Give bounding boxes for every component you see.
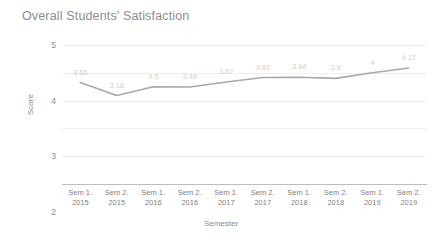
x-tick-label-2: Sem 1.2016 <box>135 188 172 214</box>
x-tick-label-8: Sem 1.2019 <box>354 188 391 214</box>
x-tick-year: 2019 <box>391 198 428 208</box>
x-tick-year: 2018 <box>281 198 318 208</box>
x-tick-year: 2016 <box>172 198 209 208</box>
x-tick-label-9: Sem 2.2019 <box>391 188 428 214</box>
y-tick-label-5: 5 <box>51 40 56 50</box>
x-tick-term: Sem 1. <box>354 188 391 198</box>
x-tick-term: Sem 2. <box>99 188 136 198</box>
x-tick-year: 2017 <box>208 198 245 208</box>
x-tick-term: Sem 1. <box>135 188 172 198</box>
chart-title: Overall Students' Satisfaction <box>22 9 189 23</box>
series-line-satisfaction <box>62 45 427 184</box>
x-tick-year: 2018 <box>318 198 355 208</box>
x-tick-term: Sem 2. <box>391 188 428 198</box>
x-tick-term: Sem 1. <box>281 188 318 198</box>
x-tick-label-4: Sem 1.2017 <box>208 188 245 214</box>
x-tick-term: Sem 2. <box>245 188 282 198</box>
chart-container: Overall Students' Satisfaction Score 012… <box>0 0 442 241</box>
x-tick-label-0: Sem 1.2015 <box>62 188 99 214</box>
y-axis-title: Score <box>26 94 35 115</box>
x-tick-label-1: Sem 2.2015 <box>99 188 136 214</box>
x-axis-tick-labels: Sem 1.2015Sem 2.2015Sem 1.2016Sem 2.2016… <box>62 188 427 214</box>
x-tick-label-7: Sem 2.2018 <box>318 188 355 214</box>
x-tick-year: 2016 <box>135 198 172 208</box>
x-axis-title: Semester <box>0 219 442 228</box>
x-tick-term: Sem 2. <box>172 188 209 198</box>
x-tick-term: Sem 1. <box>208 188 245 198</box>
x-tick-year: 2017 <box>245 198 282 208</box>
y-tick-label-3: 3 <box>51 151 56 161</box>
x-tick-term: Sem 2. <box>318 188 355 198</box>
x-tick-label-6: Sem 1.2018 <box>281 188 318 214</box>
plot-area: 012345 3.653.183.53.493.673.833.843.844.… <box>62 45 427 184</box>
x-tick-year: 2015 <box>62 198 99 208</box>
y-tick-label-4: 4 <box>51 96 56 106</box>
x-tick-label-3: Sem 2.2016 <box>172 188 209 214</box>
x-tick-label-5: Sem 2.2017 <box>245 188 282 214</box>
x-tick-year: 2015 <box>99 198 136 208</box>
x-tick-year: 2019 <box>354 198 391 208</box>
x-tick-term: Sem 1. <box>62 188 99 198</box>
grid-line-0: 0 <box>62 184 427 185</box>
y-tick-label-2: 2 <box>51 207 56 217</box>
